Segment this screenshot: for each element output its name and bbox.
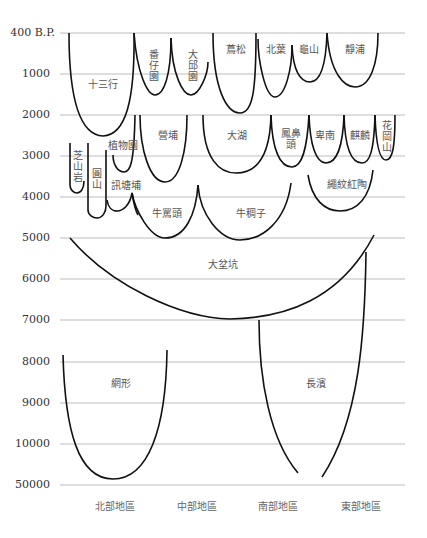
y-tick-10000: 10000	[0, 437, 50, 450]
label-changbin: 長濱	[306, 378, 326, 389]
label-zhishanyan: 芝山岩	[72, 150, 83, 183]
label-niumatou: 牛罵頭	[152, 208, 182, 219]
y-tick-6000: 6000	[0, 272, 50, 285]
label-daqiuyuan: 大邱園	[187, 49, 198, 82]
label-shengwen: 繩紋紅陶	[327, 179, 367, 190]
y-tick-8000: 8000	[0, 355, 50, 368]
label-dabenkeng: 大坌坑	[208, 259, 238, 270]
label-fanziyuan: 番仔園	[148, 49, 159, 82]
label-zhiwuyuan: 植物園	[108, 140, 138, 151]
label-beiye: 北葉	[266, 44, 286, 55]
label-dahu: 大湖	[227, 130, 247, 141]
y-tick-400: 400 B.P.	[0, 26, 55, 39]
label-jingpu: 靜浦	[345, 44, 365, 55]
culture-curves	[63, 33, 395, 479]
region-east: 東部地區	[341, 498, 381, 513]
label-niuchouzi: 牛稠子	[236, 208, 266, 219]
label-huagangshan: 花岡山	[381, 120, 392, 153]
y-tick-5000: 5000	[0, 231, 50, 244]
label-niaosong: 蔦松	[226, 44, 246, 55]
label-qilin: 麒麟	[350, 130, 370, 141]
label-beinan: 卑南	[315, 130, 335, 141]
label-fengbitou: 鳳鼻頭	[280, 128, 302, 150]
y-tick-3000: 3000	[0, 149, 50, 162]
label-xuntangpu: 訊塘埔	[111, 180, 141, 191]
label-wangxing: 網形	[111, 378, 131, 389]
label-guishan: 龜山	[299, 44, 319, 55]
label-shisanhang: 十三行	[88, 79, 118, 90]
y-tick-50000: 50000	[0, 478, 50, 491]
label-yingpu: 營埔	[158, 130, 178, 141]
region-north: 北部地區	[95, 498, 135, 513]
y-tick-2000: 2000	[0, 108, 50, 121]
region-central: 中部地區	[177, 498, 217, 513]
y-tick-1000: 1000	[0, 67, 50, 80]
region-south: 南部地區	[258, 498, 298, 513]
label-yuanshan: 圓山	[91, 168, 102, 190]
y-tick-4000: 4000	[0, 190, 50, 203]
y-tick-9000: 9000	[0, 396, 50, 409]
y-tick-7000: 7000	[0, 313, 50, 326]
